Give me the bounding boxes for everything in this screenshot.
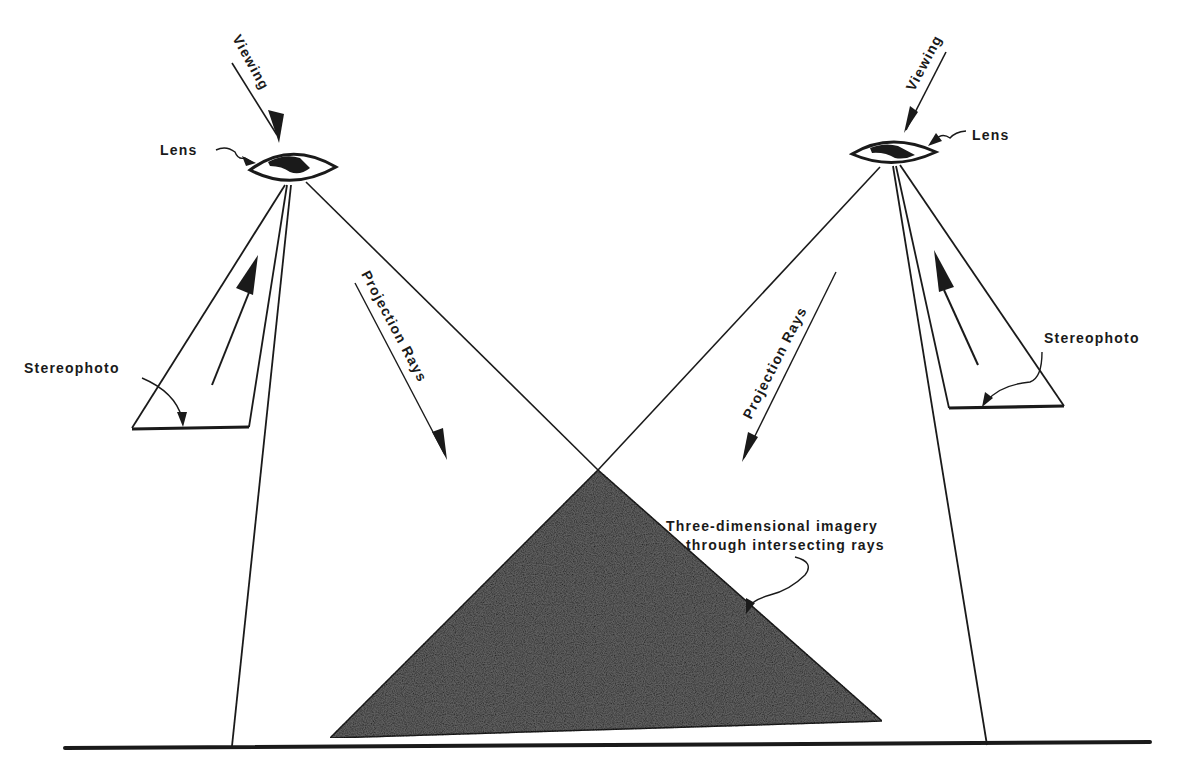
left-ray-to-photo-right	[249, 185, 287, 427]
imagery-leader-curve	[748, 557, 808, 608]
right-projection-arrowhead-icon	[742, 432, 758, 462]
right-stereophoto	[949, 406, 1064, 408]
left-lens-leader-arrowhead-icon	[242, 156, 256, 166]
left-stereophoto-leader-arrowhead-icon	[177, 412, 187, 427]
left-projection-ray	[306, 182, 598, 470]
right-projection-rays-label: Projection Rays	[739, 304, 809, 422]
right-upward-arrowhead-icon	[934, 250, 954, 292]
right-projection-label-arrow	[744, 272, 836, 458]
right-projection-ray	[598, 167, 880, 470]
left-upward-arrow	[212, 290, 250, 385]
left-ray-to-ground	[232, 185, 291, 746]
stereo-projection-diagram: Viewing Viewing Lens Lens Stereophoto St…	[0, 0, 1186, 780]
right-stereophoto-label: Stereophoto	[1044, 330, 1140, 346]
right-ray-to-ground	[893, 166, 987, 745]
right-stereophoto-leader-arrowhead-icon	[982, 392, 993, 407]
imagery-label-line2: through intersecting rays	[686, 537, 885, 553]
right-lens-leader-arrowhead-icon	[928, 133, 942, 146]
right-upward-arrow	[944, 290, 978, 365]
right-lens-label: Lens	[972, 127, 1009, 143]
imagery-label-line1: Three-dimensional imagery	[666, 518, 878, 534]
right-viewing-label: Viewing	[903, 32, 946, 93]
imagery-leader	[746, 557, 808, 614]
left-viewing-label: Viewing	[229, 32, 273, 93]
three-dimensional-imagery-region	[330, 470, 882, 738]
left-upward-arrowhead-icon	[236, 255, 258, 295]
left-projection-arrowhead-icon	[432, 428, 447, 460]
left-stereophoto-label: Stereophoto	[24, 360, 120, 376]
left-lens-label: Lens	[160, 142, 197, 158]
left-viewing-arrowhead-icon	[268, 110, 284, 143]
right-stereophoto-leader	[987, 352, 1042, 401]
left-projection-rays-label: Projection Rays	[358, 268, 430, 385]
left-stereophoto	[132, 427, 249, 429]
left-projection-label-arrow	[355, 283, 445, 455]
left-ray-to-photo-left	[132, 185, 285, 428]
left-stereophoto-leader	[142, 378, 182, 418]
